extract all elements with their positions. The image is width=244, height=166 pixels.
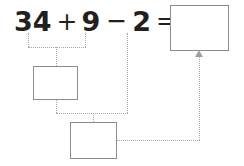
equation: 34 + 9 − 2 = (14, 4, 179, 38)
connector-join-mid (56, 113, 128, 114)
connector-from-bottom-box (117, 140, 200, 141)
answer-box-final[interactable] (170, 5, 229, 51)
connector-from-term-34 (28, 33, 29, 47)
arrow-up-icon (195, 50, 203, 57)
connector-join-top (28, 47, 86, 48)
connector-from-term-9 (85, 33, 86, 47)
answer-box-partial-result[interactable] (70, 122, 117, 159)
answer-box-partial-sum[interactable] (33, 66, 78, 100)
equation-term-2: 9 (82, 8, 101, 35)
connector-from-term-2 (127, 33, 128, 113)
equation-operator-minus: − (106, 8, 127, 33)
worksheet-canvas: 34 + 9 − 2 = (0, 0, 244, 166)
connector-into-bottom-box (93, 113, 94, 122)
equation-operator-plus: + (57, 9, 78, 34)
connector-from-mid-box (56, 100, 57, 113)
equation-term-1: 34 (14, 8, 52, 35)
connector-into-mid-box (56, 47, 57, 66)
equation-term-3: 2 (132, 8, 151, 35)
connector-riser-to-answer (199, 57, 200, 140)
